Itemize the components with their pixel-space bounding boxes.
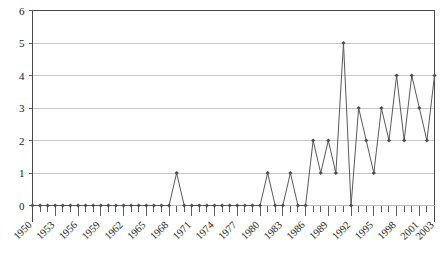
line-chart: 0123456 19501953195619591962196519681971…	[0, 0, 441, 274]
y-tick-label-0: 0	[19, 200, 25, 212]
y-tick-label-6: 6	[19, 5, 25, 17]
y-tick-label-5: 5	[19, 37, 25, 49]
y-tick-label-1: 1	[19, 167, 25, 179]
y-tick-label-2: 2	[19, 135, 25, 147]
y-tick-label-3: 3	[19, 102, 25, 114]
chart-container: 0123456 19501953195619591962196519681971…	[0, 0, 441, 274]
y-tick-label-4: 4	[19, 70, 25, 82]
